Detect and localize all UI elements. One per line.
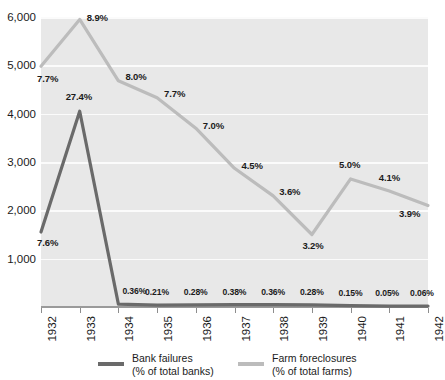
gridline bbox=[41, 162, 428, 164]
gridline bbox=[41, 65, 428, 67]
x-axis-tick-label: 1941 bbox=[394, 316, 406, 342]
x-axis-tick-mark bbox=[273, 308, 274, 313]
bank-failures-point-label: 0.38% bbox=[223, 287, 247, 297]
y-axis-tick-label: 2,000 bbox=[0, 204, 36, 216]
x-axis-tick-label: 1934 bbox=[123, 316, 135, 342]
bank-failures-point-label: 27.4% bbox=[66, 91, 92, 102]
legend-label-bank-failures: Bank failures (% of total banks) bbox=[132, 352, 214, 377]
farm-foreclosures-point-label: 4.5% bbox=[242, 160, 263, 171]
bank-failures-point-label: 0.28% bbox=[300, 287, 324, 297]
y-axis-tick-label: 4,000 bbox=[0, 108, 36, 120]
gridline bbox=[41, 259, 428, 261]
x-axis-tick-mark bbox=[41, 308, 42, 313]
legend-farm-line2: (% of total farms) bbox=[272, 365, 357, 378]
y-axis-tick-label: 6,000 bbox=[0, 11, 36, 23]
x-axis-tick-label: 1937 bbox=[240, 316, 252, 342]
bank-failures-point-label: 0.28% bbox=[184, 287, 208, 297]
x-axis-tick-mark bbox=[428, 308, 429, 313]
x-axis-tick-mark bbox=[157, 308, 158, 313]
x-axis-tick-mark bbox=[351, 308, 352, 313]
farm-foreclosures-point-label: 7.7% bbox=[164, 88, 185, 99]
legend-bank-line2: (% of total banks) bbox=[132, 365, 214, 378]
x-axis-tick-label: 1935 bbox=[162, 316, 174, 342]
x-axis-tick-mark bbox=[118, 308, 119, 313]
bank-failures-point-label: 0.05% bbox=[375, 288, 399, 298]
bank-failures-point-label: 0.21% bbox=[145, 287, 169, 297]
y-axis-tick-label: 1,000 bbox=[0, 253, 36, 265]
bank-failures-point-label: 0.15% bbox=[339, 288, 363, 298]
bank-failures-point-label: 7.6% bbox=[37, 237, 58, 248]
legend-label-farm-foreclosures: Farm foreclosures (% of total farms) bbox=[272, 352, 357, 377]
legend-item-farm-foreclosures[interactable]: Farm foreclosures (% of total farms) bbox=[238, 352, 357, 377]
x-axis-tick-mark bbox=[80, 308, 81, 313]
farm-foreclosures-point-label: 3.2% bbox=[302, 240, 323, 251]
plot-area bbox=[41, 17, 428, 307]
y-axis-tick-label: 3,000 bbox=[0, 156, 36, 168]
x-axis-tick-label: 1939 bbox=[317, 316, 329, 342]
farm-foreclosures-point-label: 4.1% bbox=[379, 172, 400, 183]
bank-failures-point-label: 0.06% bbox=[410, 288, 434, 298]
gridline bbox=[41, 114, 428, 116]
x-axis-tick-mark bbox=[389, 308, 390, 313]
farm-foreclosures-point-label: 7.7% bbox=[37, 73, 58, 84]
x-axis-tick-label: 1938 bbox=[278, 316, 290, 342]
farm-foreclosures-point-label: 8.0% bbox=[125, 71, 146, 82]
farm-foreclosures-point-label: 3.9% bbox=[399, 208, 420, 219]
bank-failures-point-label: 0.36% bbox=[261, 287, 285, 297]
x-axis-tick-label: 1932 bbox=[46, 316, 58, 342]
legend-swatch-farm-foreclosures bbox=[238, 362, 264, 366]
x-axis-tick-label: 1940 bbox=[356, 316, 368, 342]
x-axis-tick-label: 1936 bbox=[201, 316, 213, 342]
legend: Bank failures (% of total banks) Farm fo… bbox=[0, 352, 443, 380]
legend-swatch-bank-failures bbox=[98, 362, 124, 366]
farm-foreclosures-point-label: 3.6% bbox=[279, 186, 300, 197]
x-axis-tick-mark bbox=[312, 308, 313, 313]
x-axis-tick-mark bbox=[196, 308, 197, 313]
x-axis-tick-label: 1933 bbox=[85, 316, 97, 342]
legend-bank-line1: Bank failures bbox=[132, 352, 193, 364]
x-axis-tick-label: 1942 bbox=[433, 316, 445, 342]
legend-farm-line1: Farm foreclosures bbox=[272, 352, 357, 364]
legend-item-bank-failures[interactable]: Bank failures (% of total banks) bbox=[98, 352, 214, 377]
farm-foreclosures-point-label: 7.0% bbox=[203, 120, 224, 131]
x-axis-tick-mark bbox=[235, 308, 236, 313]
bank-failures-point-label: 0.36% bbox=[122, 286, 146, 296]
y-axis-tick-label: 5,000 bbox=[0, 59, 36, 71]
farm-foreclosures-point-label: 8.9% bbox=[87, 12, 108, 23]
gridline bbox=[41, 210, 428, 212]
farm-foreclosures-point-label: 5.0% bbox=[339, 159, 360, 170]
